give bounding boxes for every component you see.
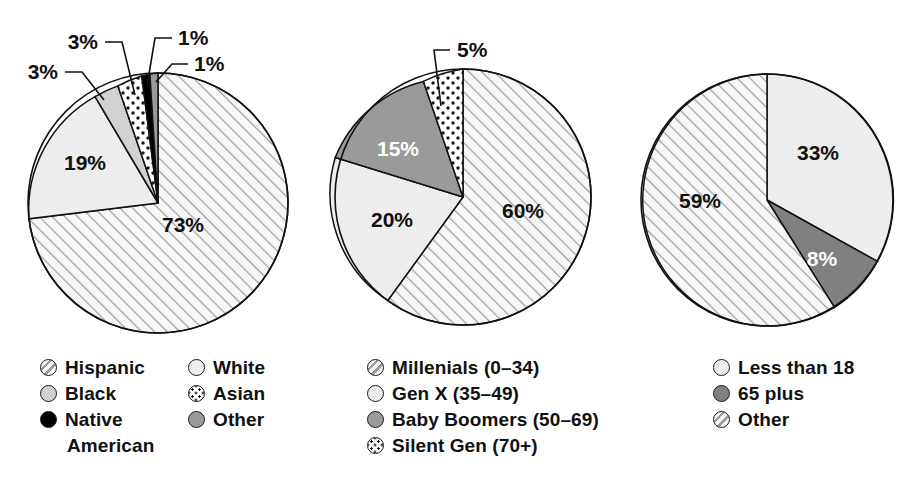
pie-chart-age-bracket: 33% 8% 59% xyxy=(620,0,913,345)
pie1-callout-1a: 1% xyxy=(178,26,209,49)
legend-item-asian[interactable]: Asian xyxy=(188,381,265,407)
pie3-label-33: 33% xyxy=(797,141,839,164)
swatch-mid-gray-icon xyxy=(188,411,205,428)
pie1-callout-1b: 1% xyxy=(194,52,225,75)
swatch-hatch-icon xyxy=(367,359,384,376)
pie1-label-73: 73% xyxy=(162,213,204,236)
pie2-label-20: 20% xyxy=(371,208,413,231)
legend-label-continued: American xyxy=(67,433,154,459)
swatch-white-icon xyxy=(367,385,384,402)
legend-label: Silent Gen (70+) xyxy=(392,433,538,459)
legend-label: Millenials (0–34) xyxy=(392,355,539,381)
legend-label: Native xyxy=(65,407,123,433)
pie2-label-15: 15% xyxy=(377,137,419,160)
legend-label: Other xyxy=(213,407,264,433)
legend-label: Less than 18 xyxy=(738,355,854,381)
legend-item-hispanic[interactable]: Hispanic xyxy=(40,355,154,381)
swatch-dots-icon xyxy=(367,437,384,454)
legend-item-native-american[interactable]: Native xyxy=(40,407,154,433)
legend-age-bracket: Less than 18 65 plus Other xyxy=(713,355,903,445)
swatch-dark-gray-icon xyxy=(713,385,730,402)
legend-item-white[interactable]: White xyxy=(188,355,265,381)
legend-item-black[interactable]: Black xyxy=(40,381,154,407)
legend-label: Asian xyxy=(213,381,265,407)
legend-item-gen-x[interactable]: Gen X (35–49) xyxy=(367,381,647,407)
figure-canvas: 73% 19% 3% 3% 1% 1% xyxy=(0,0,913,485)
swatch-hatch-icon xyxy=(713,411,730,428)
legend-label: 65 plus xyxy=(738,381,804,407)
legend-label: Black xyxy=(65,381,116,407)
legend-col-1a: Hispanic Black Native American xyxy=(40,355,154,459)
pie-chart-generation: 60% 20% 15% 5% xyxy=(320,0,620,345)
legend-item-65-plus[interactable]: 65 plus xyxy=(713,381,903,407)
legend-item-less-than-18[interactable]: Less than 18 xyxy=(713,355,903,381)
legend-item-silent-gen[interactable]: Silent Gen (70+) xyxy=(367,433,647,459)
swatch-black-icon xyxy=(40,411,57,428)
legend-label: Gen X (35–49) xyxy=(392,381,519,407)
pie1-callout-3a: 3% xyxy=(68,30,99,53)
legend-item-native-american-line2: American xyxy=(40,433,154,459)
legend-generation: Millenials (0–34) Gen X (35–49) Baby Boo… xyxy=(367,355,647,470)
pie2-label-60: 60% xyxy=(502,199,544,222)
legend-label: Hispanic xyxy=(65,355,145,381)
legend-label: White xyxy=(213,355,265,381)
legend-label: Other xyxy=(738,407,789,433)
swatch-mid-gray-icon xyxy=(367,411,384,428)
pie3-label-59: 59% xyxy=(679,189,721,212)
swatch-light-gray-icon xyxy=(40,385,57,402)
legend-item-baby-boomers[interactable]: Baby Boomers (50–69) xyxy=(367,407,647,433)
legend-item-other[interactable]: Other xyxy=(188,407,265,433)
swatch-dots-icon xyxy=(188,385,205,402)
swatch-white-icon xyxy=(188,359,205,376)
pie2-callout-5: 5% xyxy=(457,38,488,61)
legend-item-other[interactable]: Other xyxy=(713,407,903,433)
legend-item-millenials[interactable]: Millenials (0–34) xyxy=(367,355,647,381)
pie1-label-19: 19% xyxy=(64,151,106,174)
legend-race-ethnicity: Hispanic Black Native American White Asi… xyxy=(40,355,330,470)
legend-label: Baby Boomers (50–69) xyxy=(392,407,599,433)
swatch-hatch-icon xyxy=(40,359,57,376)
swatch-white-icon xyxy=(713,359,730,376)
legend-col-1b: White Asian Other xyxy=(188,355,265,433)
pie1-callout-3b: 3% xyxy=(28,60,59,83)
pie-chart-race-ethnicity: 73% 19% 3% 3% 1% 1% xyxy=(0,0,320,345)
pie3-label-8: 8% xyxy=(807,247,838,270)
